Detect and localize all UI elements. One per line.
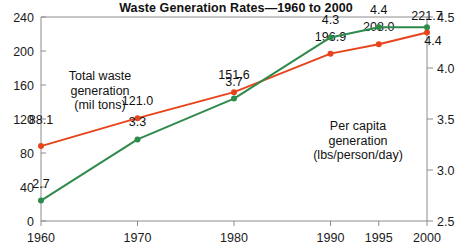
y-axis-left-tick-label: 160 — [13, 79, 34, 93]
data-point-marker — [328, 51, 334, 57]
y-axis-right-tick-label: 4.0 — [437, 62, 454, 76]
y-axis-left-tick-label: 240 — [13, 11, 34, 25]
data-point-marker — [231, 89, 237, 95]
total-waste-annotation: Total wastegeneration(mil tons) — [69, 69, 132, 112]
data-point-label: 88.1 — [29, 113, 53, 127]
data-point-label: 4.3 — [322, 13, 339, 27]
chart-plot-area: 040801201602002402.53.03.54.04.519601970… — [0, 0, 472, 250]
x-axis-tick-label: 1980 — [220, 231, 248, 245]
y-axis-left-tick-label: 200 — [13, 45, 34, 59]
series-line-per-capita — [41, 27, 427, 200]
waste-generation-chart-figure: Waste Generation Rates—1960 to 2000 0408… — [0, 0, 472, 250]
data-point-marker — [376, 24, 382, 30]
y-axis-right-tick-label: 3.5 — [437, 113, 454, 127]
x-axis-tick-label: 1970 — [124, 231, 152, 245]
x-axis-tick-label: 1960 — [27, 231, 55, 245]
y-axis-right-tick-label: 2.5 — [437, 215, 454, 229]
data-point-label: 3.3 — [129, 115, 146, 129]
data-point-marker — [231, 96, 237, 102]
y-axis-right-tick-label: 3.0 — [437, 164, 454, 178]
x-axis-tick-label: 1990 — [317, 231, 345, 245]
data-point-marker — [376, 41, 382, 47]
data-point-label: 221.7 — [411, 9, 442, 23]
data-point-label: 3.7 — [225, 75, 242, 89]
data-point-marker — [328, 34, 334, 40]
data-point-label: 4.4 — [424, 34, 441, 48]
data-point-marker — [135, 136, 141, 142]
x-axis-tick-label: 1995 — [365, 231, 393, 245]
y-axis-left-tick-label: 80 — [20, 147, 34, 161]
data-point-marker — [38, 143, 44, 149]
y-axis-left-tick-label: 0 — [27, 215, 34, 229]
data-point-label: 4.4 — [370, 3, 387, 17]
data-point-label: 2.7 — [32, 177, 49, 191]
data-point-marker — [38, 198, 44, 204]
data-point-marker — [424, 24, 430, 30]
x-axis-tick-label: 2000 — [413, 231, 441, 245]
per-capita-annotation: Per capitageneration(lbs/person/day) — [313, 119, 403, 162]
